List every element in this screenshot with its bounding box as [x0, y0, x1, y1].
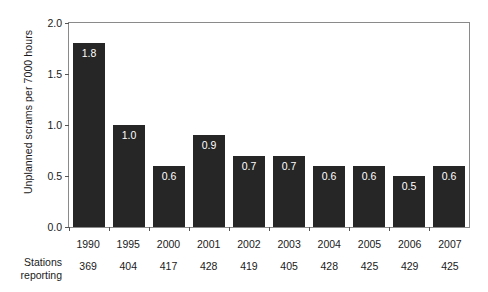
bar-value-label: 0.9	[193, 139, 224, 151]
y-axis-tick-label: 0.0	[47, 221, 69, 233]
stations-reporting-values: 369404417428419405428425429425	[68, 258, 470, 274]
bar[interactable]: 1.0	[113, 125, 144, 227]
x-axis-category-label: 2003	[269, 236, 309, 252]
bar-slot: 1.8	[69, 23, 109, 227]
bar-slot: 0.6	[309, 23, 349, 227]
bar[interactable]: 0.9	[193, 135, 224, 227]
x-axis-category-label: 1990	[68, 236, 108, 252]
bar[interactable]: 0.7	[233, 156, 264, 227]
bar[interactable]: 0.6	[433, 166, 464, 227]
y-axis-tick-label: 1.5	[47, 68, 69, 80]
bar[interactable]: 0.6	[353, 166, 384, 227]
stations-reporting-value: 419	[229, 258, 269, 274]
stations-reporting-value: 417	[148, 258, 188, 274]
stations-reporting-value: 369	[68, 258, 108, 274]
y-axis-title: Unplanned scrams per 7000 hours	[22, 2, 34, 222]
x-axis-category-label: 2001	[189, 236, 229, 252]
bar-value-label: 0.6	[433, 170, 464, 182]
x-axis-category-label: 2004	[309, 236, 349, 252]
x-axis-category-label: 2005	[349, 236, 389, 252]
bar[interactable]: 0.5	[393, 176, 424, 227]
bar-value-label: 0.6	[153, 170, 184, 182]
y-axis-tick-label: 0.5	[47, 170, 69, 182]
stations-reporting-value: 404	[108, 258, 148, 274]
x-axis-tick-mark	[189, 227, 190, 231]
stations-reporting-line2: reporting	[0, 269, 62, 282]
bar[interactable]: 0.6	[153, 166, 184, 227]
x-axis-tick-mark	[69, 227, 70, 231]
bar-slot: 0.9	[189, 23, 229, 227]
bar-value-label: 0.7	[273, 160, 304, 172]
x-axis-category-label: 1995	[108, 236, 148, 252]
bar-slot: 1.0	[109, 23, 149, 227]
x-axis-tick-mark	[429, 227, 430, 231]
stations-reporting-value: 428	[189, 258, 229, 274]
bar[interactable]: 0.6	[313, 166, 344, 227]
plot-area: 0.00.51.01.52.0 1.81.00.60.90.70.70.60.6…	[68, 22, 470, 228]
x-axis-category-label: 2006	[390, 236, 430, 252]
bar-value-label: 0.6	[353, 170, 384, 182]
bar-series: 1.81.00.60.90.70.70.60.60.50.6	[69, 23, 469, 227]
x-axis-tick-mark	[229, 227, 230, 231]
bar-value-label: 0.7	[233, 160, 264, 172]
x-axis-tick-mark	[269, 227, 270, 231]
x-axis-tick-mark	[349, 227, 350, 231]
x-axis-category-label: 2000	[148, 236, 188, 252]
bar-slot: 0.7	[269, 23, 309, 227]
y-axis-tick-label: 2.0	[47, 17, 69, 29]
bar-value-label: 1.0	[113, 129, 144, 141]
stations-reporting-value: 425	[349, 258, 389, 274]
stations-reporting-line1: Stations	[0, 256, 62, 269]
bar-value-label: 0.5	[393, 180, 424, 192]
bar-value-label: 0.6	[313, 170, 344, 182]
bar-slot: 0.5	[389, 23, 429, 227]
stations-reporting-value: 429	[390, 258, 430, 274]
bar-slot: 0.6	[349, 23, 389, 227]
x-axis-tick-mark	[149, 227, 150, 231]
stations-reporting-value: 428	[309, 258, 349, 274]
y-axis-tick-label: 1.0	[47, 119, 69, 131]
stations-reporting-row-header: Stations reporting	[0, 256, 62, 282]
bar-slot: 0.6	[429, 23, 469, 227]
stations-reporting-value: 425	[430, 258, 470, 274]
bar-slot: 0.6	[149, 23, 189, 227]
bar-value-label: 1.8	[73, 47, 104, 59]
x-axis-tick-mark	[109, 227, 110, 231]
x-axis-tick-mark	[389, 227, 390, 231]
stations-reporting-value: 405	[269, 258, 309, 274]
scrams-bar-chart-figure: Unplanned scrams per 7000 hours 0.00.51.…	[0, 0, 488, 292]
x-axis-category-label: 2007	[430, 236, 470, 252]
bar[interactable]: 1.8	[73, 43, 104, 227]
x-axis-tick-labels: 1990199520002001200220032004200520062007	[68, 236, 470, 252]
x-axis-category-label: 2002	[229, 236, 269, 252]
x-axis-tick-mark	[309, 227, 310, 231]
bar-slot: 0.7	[229, 23, 269, 227]
bar[interactable]: 0.7	[273, 156, 304, 227]
